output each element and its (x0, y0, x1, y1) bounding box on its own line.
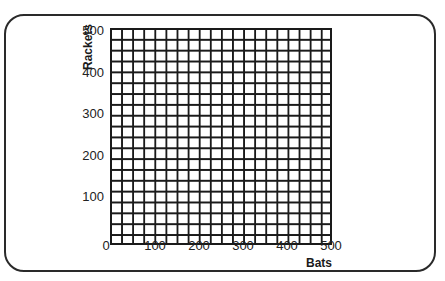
origin-tick-0: 0 (102, 239, 109, 252)
y-tick-100: 100 (82, 190, 104, 203)
y-tick-400: 400 (82, 66, 104, 79)
x-tick-400: 400 (276, 239, 298, 252)
x-tick-500: 500 (320, 239, 342, 252)
x-tick-300: 300 (232, 239, 254, 252)
plot-grid (110, 28, 332, 245)
x-tick-100: 100 (144, 239, 166, 252)
x-axis-label: Bats (306, 256, 332, 270)
y-tick-300: 300 (82, 107, 104, 120)
y-tick-200: 200 (82, 149, 104, 162)
y-tick-500: 500 (82, 24, 104, 37)
x-tick-200: 200 (188, 239, 210, 252)
